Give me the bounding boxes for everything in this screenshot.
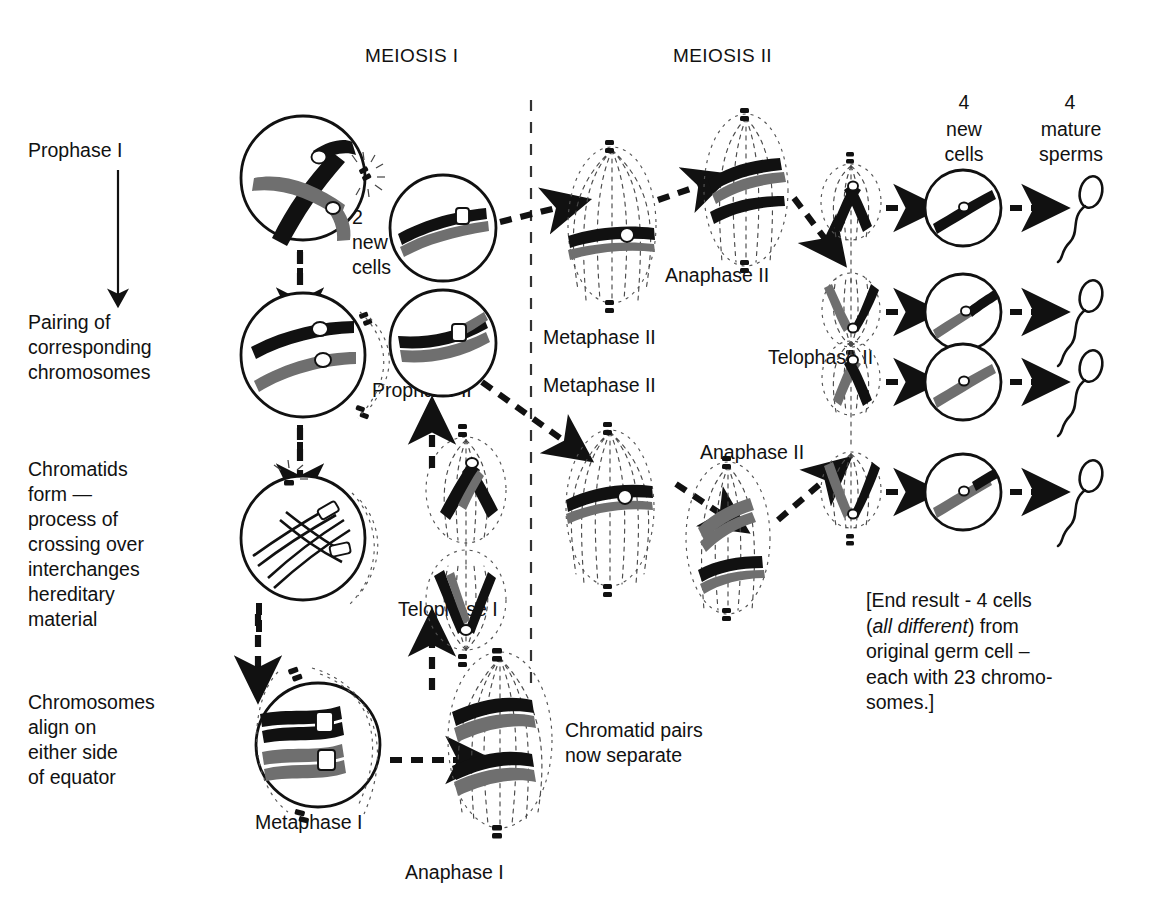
cell-metaphase-1 [256,666,380,823]
final-cell-3 [925,344,1001,420]
cell-pairing [241,293,389,454]
cell-anaphase-1 [448,648,552,839]
sperm-3 [1058,348,1106,436]
cell-prophase-1 [241,116,385,281]
cell-telophase-1 [426,424,506,667]
arrow-newcell-to-metaphase2-top [500,205,568,222]
cell-metaphase-2-bottom [566,422,654,597]
centriole [458,424,467,437]
final-cell-2 [925,274,1001,350]
sperm-1 [1058,174,1106,262]
arrow-metaphase2-to-anaphase2-top [658,182,710,200]
arrow-prophase2-to-metaphase2-bottom [482,382,574,448]
cell-anaphase-2-top [704,108,788,273]
cell-anaphase-2-bottom [686,456,770,621]
centriole [722,456,731,621]
final-cell-1 [925,170,1001,246]
cell-metaphase-2-top [568,140,656,313]
cell-crossing-over [241,460,378,632]
arrow-anaphase2-to-telophase2-bottom [778,472,834,520]
cell-new-upper [390,175,496,281]
centriole [846,152,854,164]
diagram-artwork [0,0,1168,920]
cell-telophase-2-top [821,152,881,362]
centriole [605,140,614,313]
meiosis-diagram: MEIOSIS I MEIOSIS II Prophase I Pairing … [0,0,1168,920]
cell-telophase-2-bottom [821,341,881,546]
sperm-4 [1058,458,1106,546]
final-cell-4 [925,454,1001,530]
cell-prophase-2 [390,290,496,396]
centriole [846,534,854,546]
arrow-anaphase2-to-telophase2-top [794,198,832,248]
centriole [458,654,467,667]
